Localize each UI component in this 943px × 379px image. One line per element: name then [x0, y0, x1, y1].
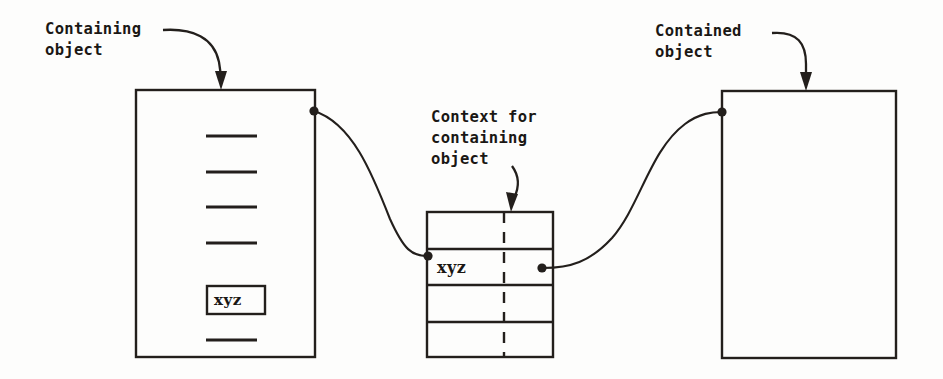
label-context-line1: Context for [431, 107, 537, 128]
connector-endpoint-containing-side [309, 106, 318, 115]
context-row2-left-label: xyz [437, 258, 466, 277]
annotation-arrow-containing-object [163, 30, 221, 76]
annotation-arrowhead-context [506, 192, 518, 212]
containing-object-box [136, 90, 315, 357]
annotation-arrowhead-containing-object [215, 71, 227, 90]
connector-containing-to-context [314, 111, 427, 256]
label-context-line3: object [431, 149, 489, 170]
connector-context-to-contained [543, 112, 722, 268]
label-contained-object-line1: Contained [655, 21, 742, 42]
label-context-line2: containing [431, 128, 527, 149]
containing-slot-xyz-label: xyz [214, 291, 242, 309]
diagram-vector-layer [0, 0, 943, 379]
contained-object-box [722, 91, 896, 358]
connector-endpoint-context-left [423, 251, 432, 260]
connector-endpoint-contained-side [717, 107, 726, 116]
connector-endpoint-context-right [537, 263, 546, 272]
annotation-arrow-contained-object [772, 33, 806, 76]
label-containing-object-line1: Containing [45, 19, 141, 40]
label-contained-object-line2: object [655, 42, 713, 63]
annotation-arrowhead-contained-object [800, 72, 812, 91]
diagram-canvas: Containing object Context for containing… [0, 0, 943, 379]
label-containing-object-line2: object [45, 40, 103, 61]
